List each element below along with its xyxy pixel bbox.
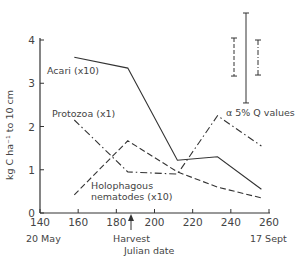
- harvest-label: Harvest: [113, 233, 150, 244]
- series-lines: [74, 57, 261, 198]
- y-axis-title: kg C ha⁻¹ to 10 cm: [4, 90, 15, 180]
- harvest-arrow-icon: [128, 214, 134, 230]
- end-date-label: 17 Sept: [250, 233, 287, 244]
- y-tick-label: 2: [28, 121, 35, 133]
- start-date-label: 20 May: [26, 233, 61, 244]
- x-ticks: 140160180200220240260: [30, 209, 279, 228]
- x-tick-label: 160: [68, 216, 88, 228]
- error-bars: [231, 13, 261, 103]
- x-axis-title: Julian date: [123, 245, 175, 256]
- y-tick-label: 4: [28, 34, 35, 46]
- series-solid-line: [74, 57, 261, 189]
- chart: 01234 140160180200220240260 Acari (x10) …: [0, 0, 307, 265]
- q-values-label: α 5% Q values: [226, 107, 295, 118]
- y-tick-label: 1: [28, 164, 35, 176]
- x-tick-label: 220: [183, 216, 203, 228]
- x-tick-label: 140: [30, 216, 50, 228]
- nematodes-label-line1: Holophagous: [91, 180, 153, 191]
- x-tick-label: 240: [221, 216, 241, 228]
- nematodes-label-line2: nematodes (x10): [91, 191, 172, 202]
- x-tick-label: 260: [259, 216, 279, 228]
- protozoa-label: Protozoa (x1): [52, 108, 115, 119]
- x-tick-label: 200: [144, 216, 164, 228]
- y-ticks: 01234: [28, 34, 44, 219]
- y-tick-label: 3: [28, 77, 35, 89]
- acari-label: Acari (x10): [47, 65, 99, 76]
- x-tick-label: 180: [106, 216, 126, 228]
